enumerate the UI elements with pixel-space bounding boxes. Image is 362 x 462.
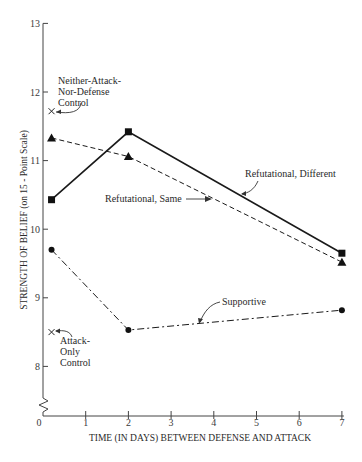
series-layer bbox=[52, 132, 342, 330]
y-tick-label: 11 bbox=[30, 155, 40, 166]
annotation-neither-control-line2: Nor-Defense bbox=[58, 86, 110, 97]
x-tick-label: 3 bbox=[169, 417, 174, 428]
data-point-supportive bbox=[125, 327, 131, 333]
x-tick-label: 6 bbox=[297, 417, 302, 428]
control-point-neither-attack-nor-defense-control bbox=[49, 108, 55, 114]
y-tick-label: 13 bbox=[30, 18, 40, 29]
x-tick-label: 5 bbox=[254, 417, 259, 428]
x-tick-label: 4 bbox=[211, 417, 216, 428]
annotation-neither-control-line3: Control bbox=[58, 97, 89, 108]
annotation-attack-only-line2: Only bbox=[60, 346, 80, 357]
annotation-attack-only-arrowhead bbox=[55, 329, 60, 334]
annotation-neither-control-arrowhead bbox=[56, 110, 61, 115]
y-tick-label: 10 bbox=[30, 224, 40, 235]
series-line-refutational-different bbox=[52, 132, 342, 253]
annotation-refutational-same: Refutational, Same bbox=[105, 193, 182, 204]
annotation-attack-only-line1: Attack- bbox=[60, 335, 90, 346]
x-tick-label: 1 bbox=[83, 417, 88, 428]
y-tick-label: 8 bbox=[35, 361, 40, 372]
data-point-refutational-same bbox=[47, 133, 56, 141]
annotation-refutational-different-arrowhead bbox=[241, 191, 246, 196]
data-point-refutational-different bbox=[338, 250, 345, 257]
y-tick-label: 12 bbox=[30, 87, 40, 98]
y-tick-label: 9 bbox=[35, 292, 40, 303]
x-tick-label: 0 bbox=[37, 417, 42, 428]
data-point-refutational-different bbox=[125, 128, 132, 135]
data-point-refutational-different bbox=[48, 196, 55, 203]
x-tick-label: 7 bbox=[339, 417, 344, 428]
annotation-layer: Neither-Attack- Nor-Defense Control Atta… bbox=[55, 75, 336, 368]
x-axis-title: TIME (IN DAYS) BETWEEN DEFENSE AND ATTAC… bbox=[89, 433, 311, 444]
annotation-supportive: Supportive bbox=[222, 296, 266, 307]
annotation-refutational-different: Refutational, Different bbox=[245, 168, 336, 179]
x-tick-label: 2 bbox=[126, 417, 131, 428]
data-point-supportive bbox=[339, 307, 345, 313]
data-point-refutational-same bbox=[337, 258, 346, 266]
series-line-supportive bbox=[52, 250, 342, 330]
marker-layer bbox=[47, 108, 346, 335]
annotation-neither-control-line1: Neither-Attack- bbox=[58, 75, 121, 86]
annotation-attack-only-line3: Control bbox=[60, 357, 91, 368]
y-axis-break bbox=[39, 398, 48, 416]
data-point-supportive bbox=[49, 247, 55, 253]
line-chart: 891011121301234567 Neither-Attack- Nor-D… bbox=[0, 0, 362, 462]
control-point-attack-only-control bbox=[49, 329, 55, 335]
y-axis-title: STRENGTH OF BELIEF (on 15 - Point Scale) bbox=[19, 130, 30, 310]
series-line-refutational-same bbox=[52, 138, 342, 262]
